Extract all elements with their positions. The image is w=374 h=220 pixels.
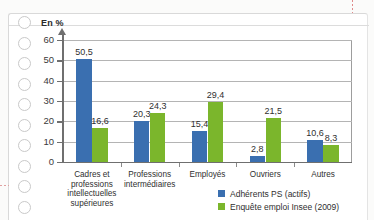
bar	[250, 156, 266, 162]
x-tick-mark	[294, 163, 295, 167]
legend-swatch-icon	[218, 203, 225, 210]
bar	[192, 131, 208, 162]
x-tick-mark	[236, 163, 237, 167]
y-axis-tick-labels: 0102030405060	[8, 0, 54, 220]
bar-value-label: 24,3	[143, 101, 173, 111]
y-tick-mark	[57, 40, 63, 41]
y-tick-label: 50	[14, 54, 54, 65]
legend-swatch-icon	[218, 190, 225, 197]
y-axis-line	[62, 33, 64, 163]
legend-item: Adhérents PS (actifs)	[218, 188, 368, 199]
y-tick-mark	[57, 142, 63, 143]
bar-value-label: 8,3	[316, 133, 346, 143]
y-tick-label: 10	[14, 136, 54, 147]
legend-item: Enquête emploi Insee (2009)	[218, 201, 368, 212]
category-label-line: Autres	[287, 170, 359, 180]
category-label-line: supérieures	[56, 199, 128, 209]
bar-value-label: 29,4	[201, 90, 231, 100]
y-tick-label: 40	[14, 75, 54, 86]
bar-value-label: 21,5	[259, 106, 289, 116]
y-tick-mark	[57, 101, 63, 102]
y-tick-label: 60	[14, 34, 54, 45]
legend: Adhérents PS (actifs)Enquête emploi Inse…	[218, 188, 368, 214]
x-tick-mark	[121, 163, 122, 167]
bar-chart: En % 0102030405060 50,516,620,324,315,42…	[0, 0, 374, 220]
bar	[307, 140, 323, 162]
legend-label: Enquête emploi Insee (2009)	[230, 202, 339, 212]
y-tick-mark	[57, 162, 63, 163]
x-tick-mark	[179, 163, 180, 167]
y-tick-mark	[57, 121, 63, 122]
bar-value-label: 50,5	[69, 47, 99, 57]
y-tick-label: 0	[14, 156, 54, 167]
bar	[134, 121, 150, 162]
bar	[323, 145, 339, 162]
y-tick-mark	[57, 60, 63, 61]
y-tick-label: 30	[14, 95, 54, 106]
category-label-line: intellectuelles	[56, 189, 128, 199]
category-label: Autres	[287, 170, 359, 180]
gridline	[63, 40, 352, 41]
bar	[92, 128, 108, 162]
y-tick-label: 20	[14, 115, 54, 126]
bar	[266, 118, 282, 162]
bar	[76, 59, 92, 162]
legend-label: Adhérents PS (actifs)	[230, 189, 310, 199]
bar	[150, 113, 166, 162]
x-axis-line	[63, 162, 352, 163]
category-label-line: intermédiaires	[114, 180, 186, 190]
y-axis-arrow-icon	[58, 28, 66, 35]
bar	[208, 102, 224, 162]
y-tick-mark	[57, 81, 63, 82]
gridline	[63, 60, 352, 61]
gridline	[63, 81, 352, 82]
bar-value-label: 16,6	[85, 116, 115, 126]
